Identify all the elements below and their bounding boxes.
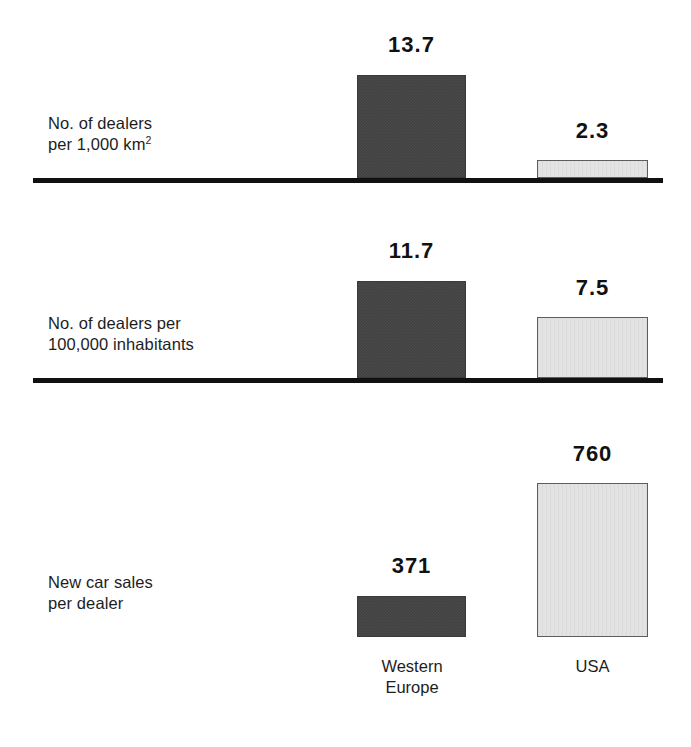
bar-usa-panel3 (537, 483, 648, 637)
value-label-western-europe-panel2: 11.7 (357, 238, 466, 264)
value-label-western-europe-panel1: 13.7 (357, 32, 466, 58)
baseline-panel2 (33, 378, 663, 383)
panel1-label-line2: per 1,000 km (48, 135, 146, 153)
baseline-panel1 (33, 178, 663, 183)
panel2-label-line2: 100,000 inhabitants (48, 335, 194, 353)
category-label-western-europe: Western Europe (347, 656, 477, 698)
bar-western-europe-panel1 (357, 75, 466, 178)
panel1-label-line1: No. of dealers (48, 114, 152, 132)
panel-dealers-per-inhabitants: 11.7 7.5 No. of dealers per100,000 inhab… (0, 200, 691, 385)
panel3-row-label: New car salesper dealer (48, 572, 153, 614)
panel1-label-superscript: 2 (146, 134, 152, 146)
bar-western-europe-panel2 (357, 281, 466, 378)
value-label-western-europe-panel3: 371 (357, 553, 466, 579)
grouped-bar-chart: 13.7 2.3 No. of dealersper 1,000 km2 11.… (0, 0, 691, 747)
value-label-usa-panel1: 2.3 (537, 118, 648, 144)
category-label-usa: USA (527, 656, 658, 677)
panel3-label-line2: per dealer (48, 594, 123, 612)
bar-usa-panel1 (537, 160, 648, 178)
panel1-row-label: No. of dealersper 1,000 km2 (48, 113, 152, 155)
value-label-usa-panel3: 760 (537, 441, 648, 467)
panel-dealers-per-area: 13.7 2.3 No. of dealersper 1,000 km2 (0, 0, 691, 185)
panel2-row-label: No. of dealers per100,000 inhabitants (48, 313, 194, 355)
panel3-label-line1: New car sales (48, 573, 153, 591)
value-label-usa-panel2: 7.5 (537, 275, 648, 301)
bar-usa-panel2 (537, 317, 648, 378)
panel2-label-line1: No. of dealers per (48, 314, 181, 332)
panel-sales-per-dealer: 371 760 New car salesper dealer (0, 400, 691, 640)
bar-western-europe-panel3 (357, 596, 466, 637)
